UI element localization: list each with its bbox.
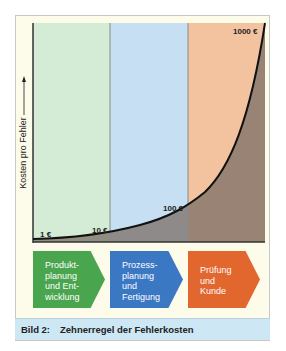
y-axis-label-text: Kosten pro Fehler [18,117,28,189]
phase-text: und Ent- [45,281,105,292]
phase-arrow-development: Produkt- planung und Ent- wicklung [33,251,105,308]
value-label-1: 1 € [40,230,51,239]
phase-text: Prüfung [200,265,260,276]
phase-arrow-customer: Prüfung und Kunde [188,251,260,308]
y-axis-label: Kosten pro Fehler [13,75,33,230]
value-label-100: 100 € [163,204,183,213]
phase-text: planung [45,271,105,282]
phase-arrow-production: Prozess- planung und Fertigung [110,251,183,308]
value-label-10: 10 € [92,226,108,235]
phase-text: und [122,281,183,292]
phase-text: und [200,276,260,287]
caption-number: Bild 2: [21,324,50,335]
caption-text: Zehnerregel der Fehlerkosten [60,324,194,335]
figure-caption: Bild 2:Zehnerregel der Fehlerkosten [15,318,270,340]
phase-text: Kunde [200,286,260,297]
phase-text: planung [122,271,183,282]
value-label-1000: 1000 € [233,27,257,36]
